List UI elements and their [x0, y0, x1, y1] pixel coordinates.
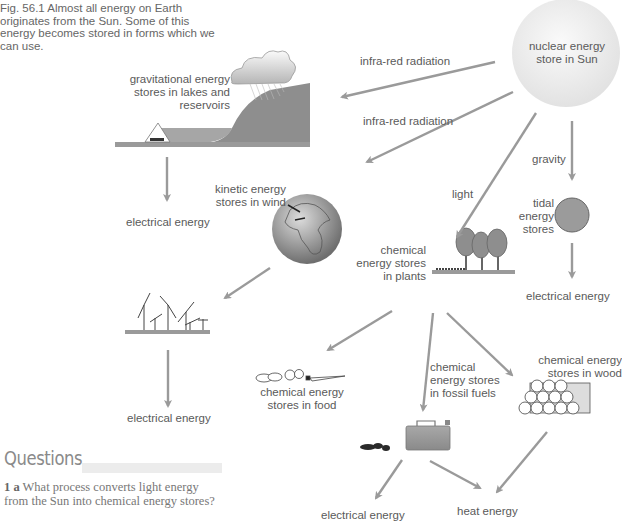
tidal-label-line2: energy	[510, 210, 554, 223]
sun-label: nuclear energy store in Sun	[522, 40, 612, 66]
fossil-label-line1: chemical	[430, 361, 500, 374]
question-1a: 1 a What process converts light energy f…	[4, 480, 224, 508]
grav-label-line1: gravitational energy	[120, 73, 230, 86]
plants-label-line2: energy stores	[350, 257, 426, 270]
food-store-label: chemical energy stores in food	[252, 386, 352, 412]
tidal-label-line1: tidal	[510, 197, 554, 210]
questions-heading: Questions	[4, 446, 82, 470]
fossil-label-line2: energy stores	[430, 374, 500, 387]
output-electrical-wind: electrical energy	[127, 412, 211, 425]
arrow-label-infrared-1: infra-red radiation	[360, 55, 450, 68]
tidal-store-label: tidal energy stores	[510, 197, 554, 236]
wind-turbines-icon	[125, 293, 210, 334]
wind-store-label: kinetic energy stores in wind	[200, 183, 286, 209]
tidal-label-line3: stores	[510, 223, 554, 236]
plants-store-label: chemical energy stores in plants	[350, 244, 426, 283]
plants-label-line1: chemical	[350, 244, 426, 257]
food-vegetables-icon	[256, 370, 345, 383]
grav-label-line2: stores in lakes and	[120, 86, 230, 99]
question-text: What process converts light energy from …	[4, 480, 215, 508]
trees-icon	[432, 228, 515, 274]
fossil-label-line3: in fossil fuels	[430, 387, 500, 400]
arrow-label-light: light	[452, 188, 473, 201]
output-electrical-hydro: electrical energy	[126, 216, 210, 229]
output-heat: heat energy	[457, 505, 518, 518]
coal-icon	[360, 443, 390, 451]
sun-label-line2: store in Sun	[522, 53, 612, 66]
output-electrical-fossil: electrical energy	[321, 509, 405, 522]
fuel-can-icon	[406, 420, 450, 450]
output-electrical-tidal: electrical energy	[526, 290, 610, 303]
wood-logs-icon	[519, 380, 590, 414]
wind-label-line2: stores in wind	[200, 196, 286, 209]
grav-label-line3: reservoirs	[120, 99, 230, 112]
wood-label-line1: chemical energy	[520, 354, 622, 367]
question-number: 1 a	[4, 480, 20, 494]
sun-label-line1: nuclear energy	[522, 40, 612, 53]
food-label-line2: stores in food	[252, 399, 352, 412]
food-label-line1: chemical energy	[252, 386, 352, 399]
wind-label-line1: kinetic energy	[200, 183, 286, 196]
energy-flow-diagram	[0, 0, 622, 523]
gravitational-store-label: gravitational energy stores in lakes and…	[120, 73, 230, 112]
wood-label-line2: stores in wood	[520, 367, 622, 380]
arrow-label-gravity: gravity	[532, 153, 566, 166]
questions-heading-rule	[82, 463, 222, 473]
plants-label-line3: in plants	[350, 270, 426, 283]
fossil-store-label: chemical energy stores in fossil fuels	[430, 361, 500, 400]
moon-icon	[555, 198, 589, 232]
arrow-label-infrared-2: infra-red radiation	[363, 115, 453, 128]
wood-store-label: chemical energy stores in wood	[520, 354, 622, 380]
